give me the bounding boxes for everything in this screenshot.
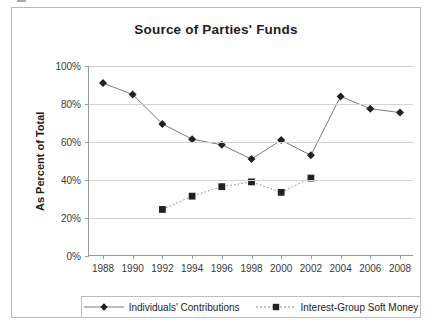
data-point-marker [189, 193, 196, 200]
y-axis-tick [85, 180, 89, 181]
data-point-marker [218, 183, 225, 190]
chart-frame: Source of Parties' Funds As Percent of T… [11, 7, 421, 318]
x-axis-tick [252, 255, 253, 259]
x-axis-tick-label: 1990 [122, 263, 144, 274]
data-point-marker [248, 155, 256, 163]
top-edge-artifact [17, 0, 26, 2]
series-layer [89, 66, 414, 256]
legend-label-individuals-contributions: Individuals' Contributions [129, 302, 240, 313]
plot-area: 0%20%40%60%80%100%1988199019921994199619… [88, 66, 413, 256]
chart-legend: Individuals' Contributions Interest-Grou… [81, 296, 421, 318]
x-axis-tick [370, 255, 371, 259]
x-axis-tick [192, 255, 193, 259]
x-axis-tick [162, 255, 163, 259]
legend-entry-interest-group-soft-money: Interest-Group Soft Money [256, 302, 419, 313]
data-point-marker [337, 92, 345, 100]
y-axis-tick-label: 100% [55, 61, 81, 72]
x-axis-tick-label: 2002 [300, 263, 322, 274]
data-point-marker [366, 105, 374, 113]
series-line-individuals-contributions [103, 83, 400, 159]
x-axis-tick-label: 1992 [151, 263, 173, 274]
x-axis-tick-label: 1988 [92, 263, 114, 274]
series-line-interest-group-soft-money [162, 178, 311, 209]
gridline-y [89, 66, 413, 67]
x-axis-tick-label: 2000 [270, 263, 292, 274]
data-point-marker [396, 109, 404, 117]
y-axis-tick [85, 66, 89, 67]
legend-entry-individuals-contributions: Individuals' Contributions [84, 302, 240, 313]
x-axis-tick-label: 1998 [240, 263, 262, 274]
y-axis-tick-label: 20% [61, 213, 81, 224]
x-axis-tick [341, 255, 342, 259]
x-axis-tick-label: 2004 [329, 263, 351, 274]
x-axis-tick [281, 255, 282, 259]
legend-swatch-square-dotted [256, 302, 296, 312]
y-axis-tick-label: 80% [61, 99, 81, 110]
x-axis-tick [311, 255, 312, 259]
data-point-marker [159, 206, 166, 213]
chart-title: Source of Parties' Funds [12, 22, 420, 37]
legend-swatch-diamond-line [84, 302, 124, 312]
data-point-marker [307, 151, 315, 159]
y-axis-title: As Percent of Total [32, 66, 48, 256]
y-axis-tick [85, 218, 89, 219]
gridline-y [89, 104, 413, 105]
y-axis-tick [85, 142, 89, 143]
y-axis-tick-label: 0% [67, 251, 81, 262]
x-axis-tick [133, 255, 134, 259]
y-axis-tick [85, 104, 89, 105]
x-axis-tick-label: 2006 [359, 263, 381, 274]
x-axis-tick-label: 2008 [389, 263, 411, 274]
gridline-y [89, 180, 413, 181]
x-axis-tick-label: 1994 [181, 263, 203, 274]
y-axis-tick-label: 40% [61, 175, 81, 186]
x-axis-tick [103, 255, 104, 259]
x-axis-tick [400, 255, 401, 259]
x-axis-tick [222, 255, 223, 259]
legend-label-interest-group-soft-money: Interest-Group Soft Money [301, 302, 419, 313]
x-axis-tick-label: 1996 [211, 263, 233, 274]
y-axis-tick [85, 256, 89, 257]
gridline-y [89, 142, 413, 143]
gridline-y [89, 218, 413, 219]
data-point-marker [278, 189, 285, 196]
data-point-marker [99, 79, 107, 87]
y-axis-tick-label: 60% [61, 137, 81, 148]
